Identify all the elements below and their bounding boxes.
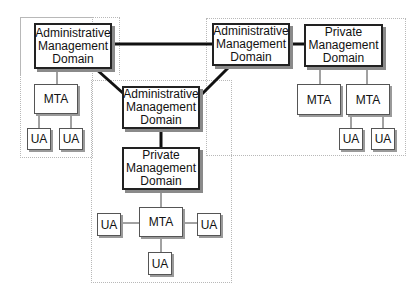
ua-center-left: UA: [97, 213, 121, 236]
private-domain-center: Private Management Domain: [122, 147, 200, 190]
ua-left-1: UA: [27, 128, 51, 150]
mta-left: MTA: [34, 84, 78, 114]
ua-right-1: UA: [339, 128, 363, 150]
ua-center-bottom: UA: [148, 252, 172, 275]
mta-center: MTA: [139, 207, 183, 237]
admin-domain-right: Administrative Management Domain: [212, 23, 290, 66]
mta-right-1: MTA: [297, 84, 341, 115]
ua-right-2: UA: [371, 128, 395, 150]
mta-right-2: MTA: [346, 84, 390, 115]
ua-left-2: UA: [59, 128, 83, 150]
ua-center-right: UA: [197, 213, 221, 236]
admin-domain-center: Administrative Management Domain: [122, 86, 200, 129]
private-domain-right: Private Management Domain: [304, 24, 383, 67]
admin-domain-left: Administrative Management Domain: [34, 23, 112, 69]
